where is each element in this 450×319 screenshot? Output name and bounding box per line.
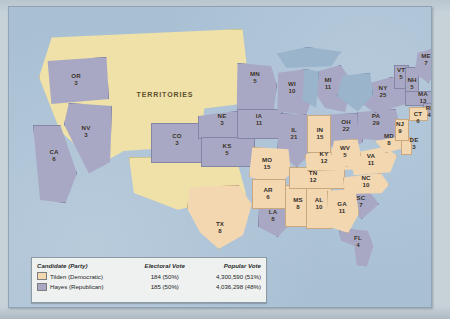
legend-row-tilden: Tilden (Democratic) 184 (50%) 4,300,590 … (37, 271, 261, 281)
page-root: TERRITORIES (0, 0, 450, 319)
state-shape-AR[interactable] (252, 179, 286, 209)
legend-header-popular: Popular Vote (195, 262, 261, 271)
swatch-republican (37, 283, 47, 291)
legend-popular-hayes: 4,036,298 (48%) (195, 281, 261, 291)
legend-header-electoral: Electoral Vote (135, 262, 195, 271)
legend-header-candidate: Candidate (Party) (37, 262, 135, 271)
legend-header-row: Candidate (Party) Electoral Vote Popular… (37, 262, 261, 271)
state-shape-NJ[interactable] (395, 119, 409, 141)
state-shape-MN[interactable] (235, 63, 277, 111)
state-shape-CO[interactable] (151, 123, 205, 163)
state-shape-CT[interactable] (409, 107, 428, 121)
legend-electoral-hayes: 185 (50%) (135, 281, 195, 291)
legend-electoral-tilden: 184 (50%) (135, 271, 195, 281)
state-shape-IA[interactable] (237, 109, 283, 139)
legend-candidate-hayes: Hayes (Republican) (37, 281, 135, 291)
map-frame: TERRITORIES (8, 6, 432, 308)
legend-box: Candidate (Party) Electoral Vote Popular… (31, 257, 267, 303)
state-shape-KS[interactable] (201, 137, 255, 167)
territories-label: TERRITORIES (105, 91, 225, 98)
legend-popular-tilden: 4,300,590 (51%) (195, 271, 261, 281)
legend-row-hayes: Hayes (Republican) 185 (50%) 4,036,298 (… (37, 281, 261, 291)
legend-table: Candidate (Party) Electoral Vote Popular… (37, 262, 261, 292)
swatch-democratic (37, 272, 47, 280)
state-shape-OR[interactable] (45, 57, 109, 107)
legend-candidate-tilden: Tilden (Democratic) (37, 271, 135, 281)
state-shape-IN[interactable] (307, 115, 331, 153)
